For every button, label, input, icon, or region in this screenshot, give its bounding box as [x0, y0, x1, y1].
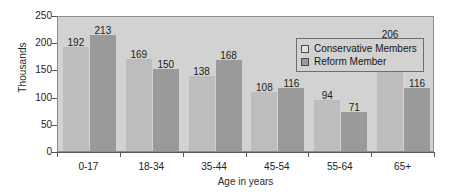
x-tick-mark	[120, 152, 121, 157]
bar-chart-screenshot: Thousands 250200150100500 19221316915013…	[0, 0, 454, 192]
x-axis-title: Age in years	[57, 176, 434, 187]
bar-value-label: 71	[338, 102, 370, 113]
legend-item-reform-member: Reform Member	[301, 55, 417, 68]
y-tick-mark	[52, 98, 57, 99]
x-tick-label: 0-17	[58, 161, 118, 172]
bar-45-54-series-2	[278, 88, 304, 151]
y-tick-label: 200	[28, 38, 52, 48]
bar-value-label: 94	[311, 90, 343, 101]
bar-value-label: 116	[401, 78, 433, 89]
bar-65+-series-2	[404, 88, 430, 151]
x-tick-mark	[57, 152, 58, 157]
bar-value-label: 150	[150, 59, 182, 70]
bar-value-label: 213	[87, 25, 119, 36]
bar-45-54-series-1	[251, 92, 277, 151]
legend-label-conservative: Conservative Members	[314, 43, 417, 55]
y-tick-mark	[52, 125, 57, 126]
x-tick-label: 45-54	[247, 161, 307, 172]
x-tick-label: 35-44	[184, 161, 244, 172]
bar-18-34-series-2	[153, 69, 179, 151]
bar-value-label: 138	[186, 66, 218, 77]
bar-value-label: 116	[275, 78, 307, 89]
x-tick-label: 65+	[373, 161, 433, 172]
y-tick-label: 100	[28, 93, 52, 103]
legend-label-reform: Reform Member	[314, 56, 386, 68]
legend-item-conservative-members: Conservative Members	[301, 42, 417, 55]
chart-legend: Conservative Members Reform Member	[296, 38, 424, 72]
bar-55-64-series-1	[314, 100, 340, 151]
y-tick-mark	[52, 16, 57, 17]
bar-value-label: 168	[213, 50, 245, 61]
bar-0-17-series-1	[63, 47, 89, 151]
y-axis-tick-labels: 250200150100500	[22, 0, 52, 192]
y-tick-label: 150	[28, 65, 52, 75]
plot-area: 1922131691501381681081169471206116 Conse…	[57, 16, 434, 152]
legend-swatch-icon-reform	[301, 58, 309, 66]
y-tick-label: 250	[28, 11, 52, 21]
x-tick-label: 55-64	[310, 161, 370, 172]
x-tick-mark	[308, 152, 309, 157]
y-tick-mark	[52, 43, 57, 44]
bar-18-34-series-1	[126, 59, 152, 151]
bar-35-44-series-1	[189, 76, 215, 151]
y-tick-label: 0	[28, 147, 52, 157]
legend-swatch-icon-conservative	[301, 45, 309, 53]
bar-value-label: 192	[60, 37, 92, 48]
x-tick-mark	[434, 152, 435, 157]
x-tick-label: 18-34	[121, 161, 181, 172]
bar-55-64-series-2	[341, 112, 367, 151]
bar-35-44-series-2	[216, 60, 242, 151]
x-tick-mark	[371, 152, 372, 157]
y-tick-mark	[52, 70, 57, 71]
x-tick-mark	[246, 152, 247, 157]
y-tick-label: 50	[28, 120, 52, 130]
bar-0-17-series-2	[90, 35, 116, 151]
x-tick-mark	[183, 152, 184, 157]
